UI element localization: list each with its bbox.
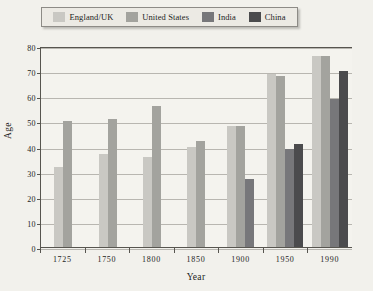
y-tick-label: 10	[27, 219, 36, 228]
legend-item: India	[202, 12, 236, 22]
x-tick-group: 1950	[263, 248, 308, 270]
y-tick-label: 70	[27, 69, 36, 78]
x-tick-group: 1990	[307, 248, 352, 270]
x-tick-group: 1900	[218, 248, 263, 270]
bar	[276, 76, 285, 247]
bar	[99, 154, 108, 247]
legend-label: United States	[142, 12, 189, 22]
legend-swatch-icon	[202, 12, 214, 22]
legend-label: India	[218, 12, 236, 22]
legend-swatch-icon	[126, 12, 138, 22]
legend-swatch-icon	[53, 12, 65, 22]
x-tick-mark	[85, 248, 86, 253]
x-tick-mark	[307, 248, 308, 253]
legend-item: United States	[126, 12, 189, 22]
bar-group	[219, 48, 263, 247]
x-tick-label: 1800	[129, 255, 174, 264]
legend-swatch-icon	[249, 12, 261, 22]
y-tick-label: 40	[27, 144, 36, 153]
legend-item: England/UK	[53, 12, 113, 22]
bar	[108, 119, 117, 247]
x-tick-mark	[174, 248, 175, 253]
bar-group	[263, 48, 307, 247]
y-tick-label: 30	[27, 169, 36, 178]
x-tick-group: 1800	[129, 248, 174, 270]
bar	[187, 147, 196, 248]
chart-legend: England/UKUnited StatesIndiaChina	[41, 7, 298, 27]
y-axis-title: Age	[3, 122, 13, 139]
x-tick-mark	[129, 248, 130, 253]
bar	[152, 106, 161, 247]
x-tick-group: 1750	[85, 248, 130, 270]
bar	[267, 74, 276, 247]
legend-label: China	[265, 12, 286, 22]
x-tick-group: 1725	[40, 248, 85, 270]
x-tick-group: 1850	[174, 248, 219, 270]
x-tick-label: 1850	[174, 255, 219, 264]
bar	[330, 99, 339, 247]
x-axis: 1725175018001850190019501990	[40, 248, 352, 270]
bar	[321, 56, 330, 247]
bar-group	[174, 48, 218, 247]
x-tick-label: 1725	[40, 255, 85, 264]
bar-group	[130, 48, 174, 247]
bar-group	[85, 48, 129, 247]
x-axis-title: Year	[40, 272, 352, 282]
bar	[236, 126, 245, 247]
plot-area: 01020304050607080	[40, 47, 352, 248]
x-tick-label: 1950	[263, 255, 308, 264]
x-tick-mark	[218, 248, 219, 253]
legend-label: England/UK	[69, 12, 113, 22]
bar	[143, 157, 152, 247]
y-tick-label: 0	[32, 245, 36, 254]
bar	[312, 56, 321, 247]
bar	[54, 167, 63, 247]
bar	[227, 126, 236, 247]
y-tick-label: 80	[27, 44, 36, 53]
y-tick-label: 60	[27, 94, 36, 103]
bar	[245, 179, 254, 247]
bar	[339, 71, 348, 247]
bar	[285, 149, 294, 247]
x-tick-label: 1900	[218, 255, 263, 264]
bar-group	[308, 48, 352, 247]
y-tick-label: 50	[27, 119, 36, 128]
bar-group	[41, 48, 85, 247]
x-tick-mark	[40, 248, 41, 253]
bar	[196, 141, 205, 247]
bar-groups	[41, 48, 352, 247]
legend-item: China	[249, 12, 286, 22]
bar	[63, 121, 72, 247]
x-tick-label: 1990	[307, 255, 352, 264]
x-tick-label: 1750	[85, 255, 130, 264]
y-tick-label: 20	[27, 194, 36, 203]
x-tick-mark	[263, 248, 264, 253]
bar	[294, 144, 303, 247]
